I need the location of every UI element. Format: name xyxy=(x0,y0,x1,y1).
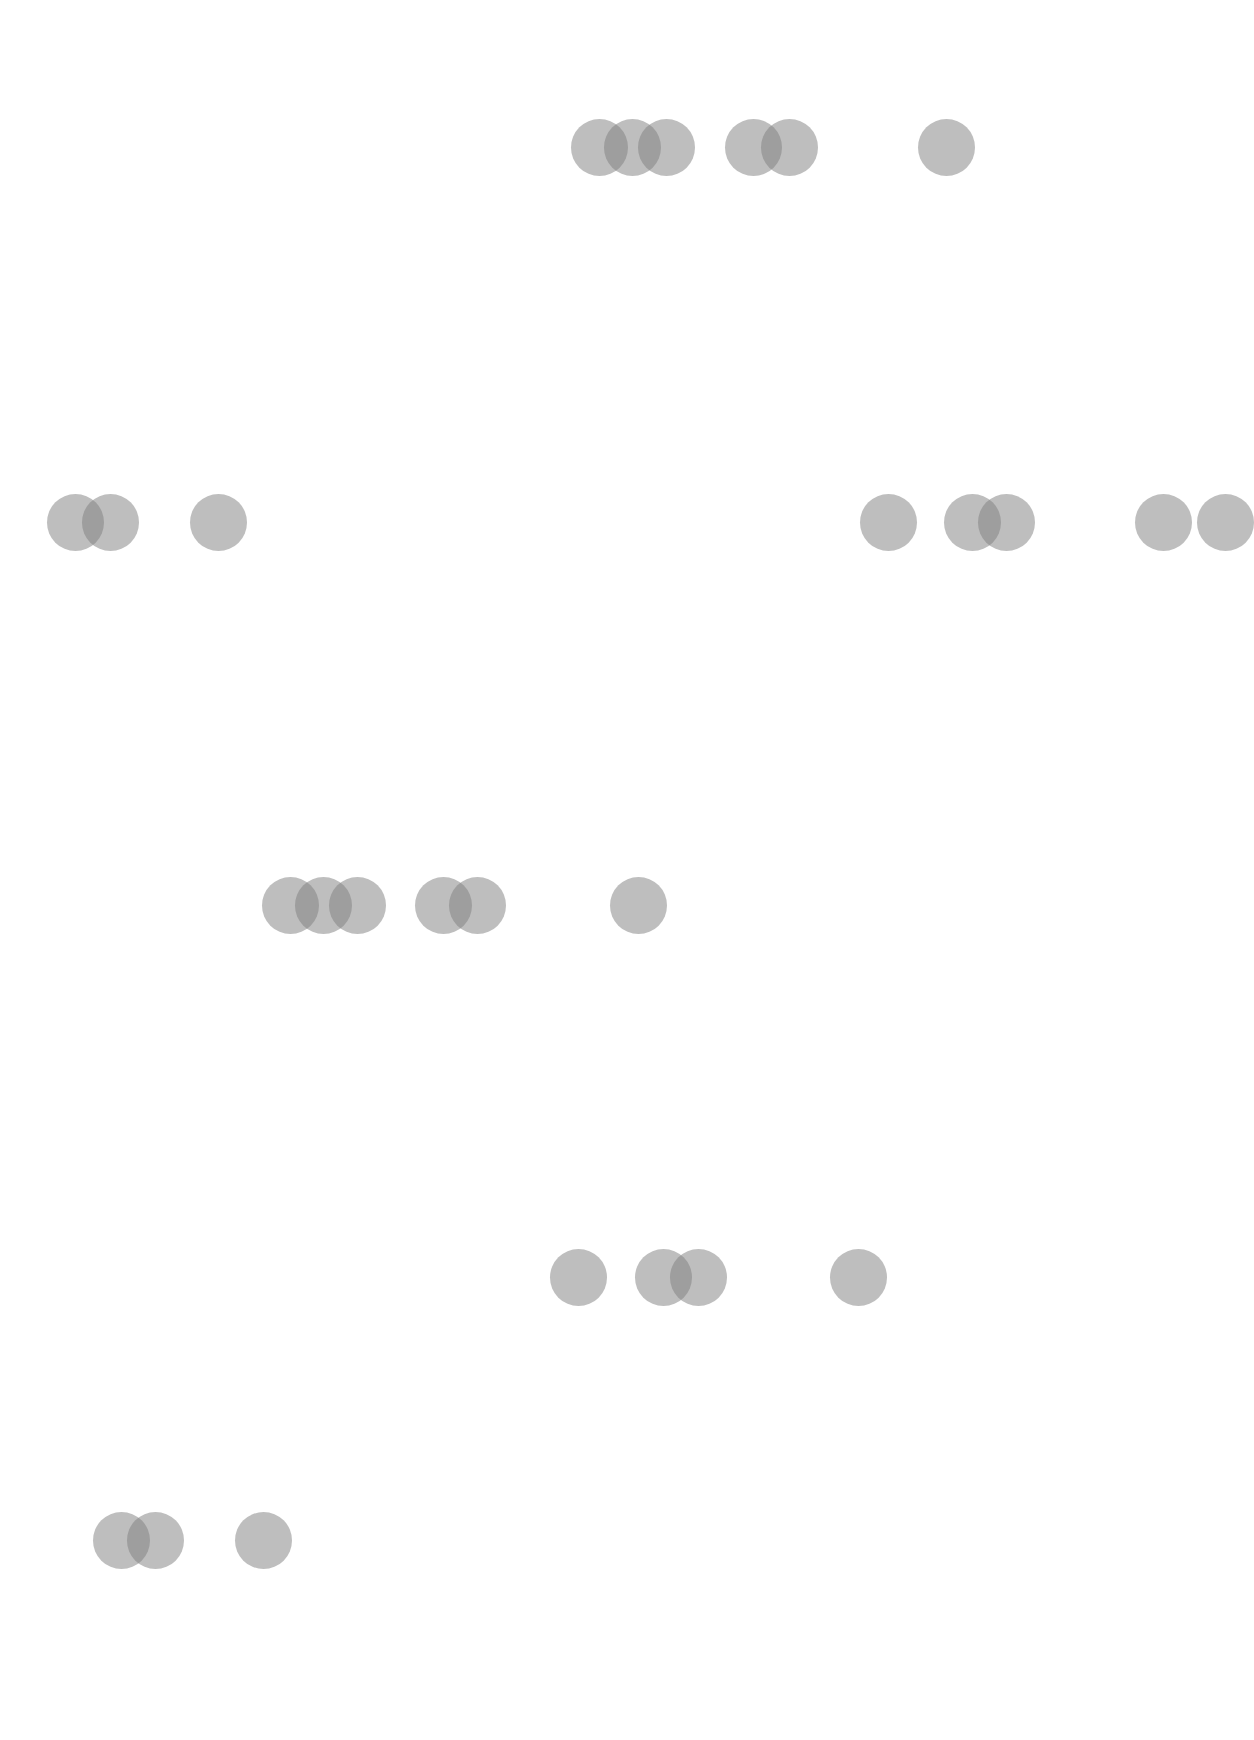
circle-shape xyxy=(978,494,1035,551)
circle-shape xyxy=(1197,494,1254,551)
circle-shape xyxy=(610,877,667,934)
circle-shape xyxy=(550,1249,607,1306)
circle-shape xyxy=(918,119,975,176)
circle-shape xyxy=(449,877,506,934)
circle-shape xyxy=(638,119,695,176)
circle-shape xyxy=(1135,494,1192,551)
circle-shape xyxy=(82,494,139,551)
circle-shape xyxy=(329,877,386,934)
circle-shape xyxy=(127,1512,184,1569)
circle-shape xyxy=(235,1512,292,1569)
circle-shape xyxy=(860,494,917,551)
circle-shape xyxy=(670,1249,727,1306)
circle-shape xyxy=(830,1249,887,1306)
circle-shape xyxy=(190,494,247,551)
circle-shape xyxy=(761,119,818,176)
